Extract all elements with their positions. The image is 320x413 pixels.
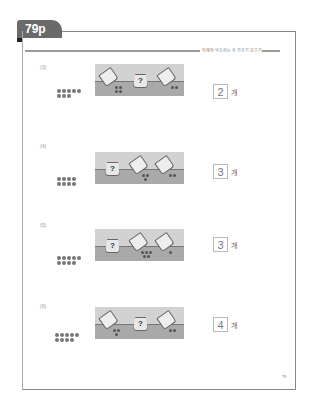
question-number: (4) (40, 143, 46, 149)
page-number: 79 (282, 374, 286, 379)
question-cup-icon: ? (133, 74, 148, 88)
question-number: (5) (40, 222, 46, 228)
dot-group (55, 333, 79, 342)
header-rule-right (262, 50, 280, 52)
question-number: (6) (40, 303, 46, 309)
cup-illustration: ? (95, 307, 184, 339)
dot-group (57, 256, 81, 265)
header-rule (25, 50, 200, 52)
answer-box: 3 (213, 237, 228, 252)
unit-label: 개 (231, 167, 237, 177)
answer-box: 4 (213, 317, 228, 332)
answer-box: 2 (213, 84, 228, 99)
unit-label: 개 (231, 87, 237, 97)
unit-label: 개 (231, 240, 237, 250)
question-number: (3) (40, 64, 46, 70)
header-title: 차례와 약속하는 수 가르기 모으기 (202, 47, 262, 53)
page-frame-top (62, 31, 296, 32)
question-cup-icon: ? (105, 239, 120, 253)
cup-illustration: ? (95, 152, 184, 184)
cup-illustration: ? (95, 229, 184, 261)
dot-group (57, 89, 81, 98)
question-cup-icon: ? (133, 317, 148, 331)
cup-illustration: ? (95, 64, 184, 96)
question-cup-icon: ? (105, 162, 120, 176)
dot-group (57, 177, 76, 186)
unit-label: 개 (231, 320, 237, 330)
answer-box: 3 (213, 164, 228, 179)
